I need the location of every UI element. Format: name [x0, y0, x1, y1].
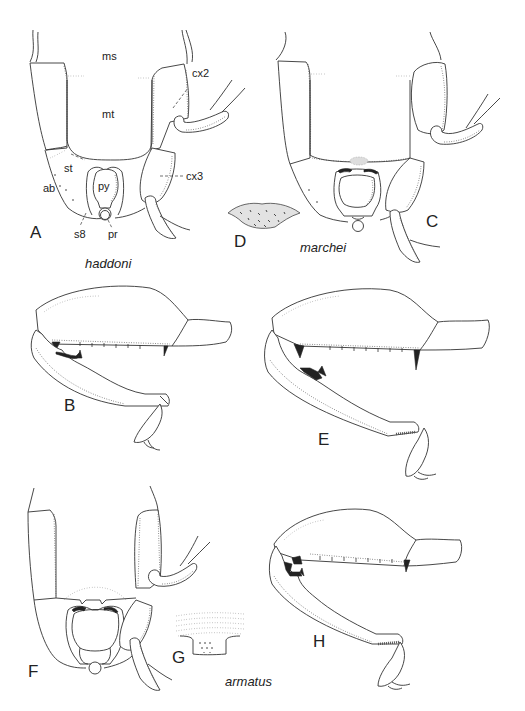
annotation-st: st: [64, 162, 73, 174]
annotation-cx2: cx2: [192, 67, 209, 79]
panel-letter-g: G: [172, 648, 185, 668]
figure-drawings: [0, 0, 525, 711]
panel-b-drawing: [31, 286, 231, 450]
panel-h-drawing: [269, 509, 461, 689]
panel-letter-h: H: [313, 632, 325, 652]
panel-letter-e: E: [318, 430, 329, 450]
annotation-py: py: [98, 180, 110, 192]
annotation-ab: ab: [43, 182, 55, 194]
panel-a-drawing: [30, 30, 245, 239]
panel-d-drawing: [228, 203, 300, 228]
annotation-pr: pr: [108, 228, 118, 240]
panel-letter-f: F: [28, 662, 38, 682]
panel-letter-b: B: [64, 396, 75, 416]
panel-c-drawing: [276, 32, 500, 262]
annotation-cx3: cx3: [186, 170, 203, 182]
species-label-armatus: armatus: [225, 674, 272, 689]
figure-plate: A B C D E F G H haddoni marchei armatus …: [0, 0, 525, 711]
panel-letter-c: C: [426, 212, 438, 232]
annotation-s8: s8: [74, 228, 86, 240]
annotation-mt: mt: [102, 108, 114, 120]
annotation-ms: ms: [102, 50, 117, 62]
species-label-haddoni: haddoni: [85, 256, 131, 271]
panel-g-drawing: [176, 613, 244, 655]
panel-e-drawing: [265, 289, 490, 480]
panel-letter-a: A: [30, 223, 41, 243]
panel-letter-d: D: [234, 232, 246, 252]
species-label-marchei: marchei: [300, 240, 346, 255]
